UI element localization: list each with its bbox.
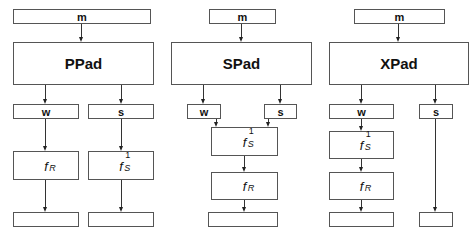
fn-sub: S	[248, 140, 254, 149]
label: m	[395, 11, 405, 23]
arrow	[361, 119, 362, 126]
xpad-fS1-box: f1S	[329, 131, 394, 159]
ppad-final-right	[88, 212, 154, 227]
xpad-input-m: m	[354, 9, 445, 24]
fn-sub: S	[124, 164, 130, 173]
function-label: fR	[360, 178, 364, 194]
fn-base: f	[119, 159, 123, 174]
fn-sub: R	[49, 164, 56, 173]
ppad-output-w: w	[13, 104, 79, 119]
label: w	[357, 106, 366, 118]
ppad-output-s: s	[88, 104, 154, 119]
arrow	[45, 180, 46, 207]
arrow	[244, 156, 245, 167]
function-label: f1S	[360, 137, 364, 153]
arrow	[241, 24, 242, 37]
label: s	[277, 106, 283, 118]
arrow	[81, 24, 82, 37]
fn-sub: S	[365, 143, 371, 152]
arrow	[45, 85, 46, 99]
arrow	[398, 24, 399, 37]
label: m	[77, 11, 87, 23]
spad-input-m: m	[209, 9, 276, 24]
label: s	[433, 106, 439, 118]
arrow	[203, 85, 204, 99]
ppad-final-left	[13, 212, 79, 227]
title: XPad	[380, 55, 418, 72]
fn-sub: R	[248, 184, 255, 193]
fn-base: f	[243, 135, 247, 150]
label: w	[42, 106, 51, 118]
ppad-box: PPad	[13, 42, 154, 85]
label: s	[118, 106, 124, 118]
arrow	[361, 200, 362, 207]
label: w	[200, 106, 209, 118]
xpad-output-s: s	[419, 104, 453, 119]
fn-base: f	[243, 179, 247, 194]
xpad-fR-box: fR	[329, 172, 394, 200]
ppad-fR-box: fR	[13, 151, 79, 180]
arrow	[361, 85, 362, 99]
xpad-final-right	[419, 212, 453, 227]
ppad-fS1-box: f1S	[88, 151, 154, 180]
function-label: f1S	[119, 158, 123, 174]
function-label: fR	[243, 178, 247, 194]
xpad-final-left	[329, 212, 394, 227]
arrow	[280, 85, 281, 99]
fn-sup: 1	[249, 127, 254, 136]
spad-output-w: w	[187, 104, 221, 119]
xpad-output-w: w	[329, 104, 394, 119]
fn-sup: 1	[125, 151, 130, 160]
fn-sup: 1	[366, 130, 371, 139]
fn-base: f	[360, 179, 364, 194]
arrow	[121, 180, 122, 207]
spad-fS1-box: f1S	[211, 127, 278, 156]
function-label: f1S	[243, 134, 247, 150]
arrow	[244, 200, 245, 207]
arrow	[121, 119, 122, 146]
spad-fR-box: fR	[211, 172, 278, 200]
ppad-input-m: m	[13, 9, 151, 24]
spad-output-s: s	[264, 104, 297, 119]
arrow	[45, 119, 46, 146]
fn-base: f	[360, 138, 364, 153]
arrow	[361, 159, 362, 167]
arrow	[435, 119, 436, 207]
fn-sub: R	[365, 184, 372, 193]
title: PPad	[65, 55, 103, 72]
arrow	[435, 85, 436, 99]
label: m	[238, 11, 248, 23]
spad-final	[208, 212, 278, 227]
xpad-box: XPad	[329, 42, 469, 85]
spad-box: SPad	[171, 42, 312, 85]
function-label: fR	[44, 158, 48, 174]
title: SPad	[223, 55, 261, 72]
fn-base: f	[44, 159, 48, 174]
arrow	[121, 85, 122, 99]
